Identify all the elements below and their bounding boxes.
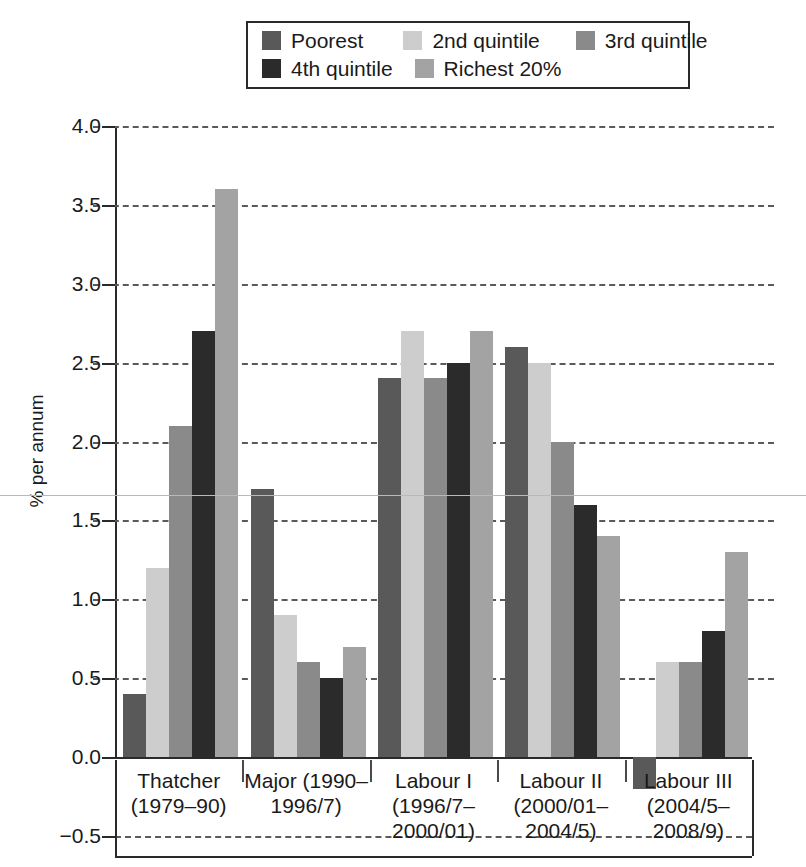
bar[interactable] (343, 647, 366, 757)
y-axis-tick-label: 4.0 (72, 115, 101, 136)
x-axis-category-label: Thatcher(1979–90) (115, 760, 242, 818)
legend-swatch-icon (262, 59, 281, 78)
plot-area: 4.03.53.02.52.01.51.00.50.0−0.5 (115, 126, 752, 867)
legend-row: Poorest2nd quintile3rd quintile (262, 30, 678, 51)
y-axis-tick (102, 126, 115, 128)
x-axis-category-line: 2008/9) (625, 818, 752, 843)
bar[interactable] (679, 662, 702, 757)
bar[interactable] (274, 615, 297, 757)
x-axis-category-label: Labour II(2000/01–2004/5) (497, 760, 624, 843)
bar[interactable] (169, 426, 192, 757)
bar[interactable] (297, 662, 320, 757)
gridline (93, 284, 774, 286)
y-axis-tick-label: 0.5 (72, 667, 101, 688)
x-axis-category-line: Thatcher (115, 768, 242, 793)
x-frame-right (752, 760, 754, 856)
legend-item[interactable]: 3rd quintile (576, 30, 708, 51)
x-axis-category-line: Labour II (497, 768, 624, 793)
x-axis-category-line: Labour III (625, 768, 752, 793)
x-axis-separator (242, 760, 244, 782)
bar[interactable] (551, 442, 574, 758)
y-axis-tick-label: 2.5 (72, 352, 101, 373)
y-axis-tick-label: −0.5 (60, 825, 101, 846)
x-frame-bottom (115, 856, 752, 858)
bar[interactable] (574, 505, 597, 757)
bar[interactable] (702, 631, 725, 757)
x-axis-category-label: Labour I(1996/7–2000/01) (370, 760, 497, 843)
x-axis-separator (370, 760, 372, 782)
x-axis-category-line: 2000/01) (370, 818, 497, 843)
x-axis-separator (497, 760, 499, 782)
bar[interactable] (597, 536, 620, 757)
y-axis-tick-label: 0.0 (72, 746, 101, 767)
bar[interactable] (146, 568, 169, 757)
y-axis-tick (102, 284, 115, 286)
y-axis-tick (102, 757, 115, 759)
legend-swatch-icon (415, 59, 434, 78)
legend-swatch-icon (403, 31, 422, 50)
x-axis-category-line: (2000/01– (497, 793, 624, 818)
bar[interactable] (251, 489, 274, 757)
bar[interactable] (123, 694, 146, 757)
bar[interactable] (401, 331, 424, 757)
legend-swatch-icon (262, 31, 281, 50)
legend-item-label: Richest 20% (444, 58, 562, 79)
y-axis-tick-label: 3.5 (72, 194, 101, 215)
y-axis-tick-label: 3.0 (72, 273, 101, 294)
y-axis-tick-label: 1.5 (72, 509, 101, 530)
x-axis-category-label: Major (1990–1996/7) (242, 760, 369, 818)
bar[interactable] (320, 678, 343, 757)
legend-item[interactable]: 2nd quintile (403, 30, 539, 51)
legend-item-label: 3rd quintile (605, 30, 708, 51)
bar[interactable] (192, 331, 215, 757)
bar[interactable] (378, 378, 401, 757)
legend-item-label: 2nd quintile (432, 30, 539, 51)
chart-page: Poorest2nd quintile3rd quintile4th quint… (0, 0, 806, 867)
legend-row: 4th quintileRichest 20% (262, 58, 678, 79)
bar[interactable] (656, 662, 679, 757)
gridline (93, 205, 774, 207)
bar[interactable] (725, 552, 748, 757)
x-axis-category-label: Labour III(2004/5–2008/9) (625, 760, 752, 843)
bar[interactable] (424, 378, 447, 757)
x-axis-category-line: 2004/5) (497, 818, 624, 843)
legend-item[interactable]: Poorest (262, 30, 363, 51)
x-axis-labels: Thatcher(1979–90)Major (1990–1996/7)Labo… (115, 760, 752, 865)
legend-item-label: 4th quintile (291, 58, 393, 79)
x-axis-category-line: Labour I (370, 768, 497, 793)
y-axis-tick (102, 442, 115, 444)
bar[interactable] (528, 363, 551, 757)
y-axis-title: % per annum (26, 356, 48, 546)
x-axis-category-line: (1979–90) (115, 793, 242, 818)
reference-line (0, 495, 806, 496)
y-axis-tick-label: 1.0 (72, 588, 101, 609)
legend-item-label: Poorest (291, 30, 363, 51)
y-axis-tick (102, 678, 115, 680)
x-axis-category-line: (2004/5– (625, 793, 752, 818)
zero-baseline (115, 757, 752, 759)
bar[interactable] (447, 363, 470, 757)
bar[interactable] (505, 347, 528, 757)
x-axis-category-line: Major (1990– (242, 768, 369, 793)
x-axis-category-line: (1996/7– (370, 793, 497, 818)
y-axis-tick (102, 363, 115, 365)
bar[interactable] (215, 189, 238, 757)
legend-item[interactable]: 4th quintile (262, 58, 393, 79)
y-axis-tick (102, 205, 115, 207)
y-axis-tick-label: 2.0 (72, 431, 101, 452)
y-axis-tick (102, 836, 115, 838)
x-axis-separator (625, 760, 627, 782)
legend-swatch-icon (576, 31, 595, 50)
chart-legend: Poorest2nd quintile3rd quintile4th quint… (246, 21, 690, 89)
x-axis-category-line: 1996/7) (242, 793, 369, 818)
legend-item[interactable]: Richest 20% (415, 58, 562, 79)
y-axis-tick (102, 520, 115, 522)
bar[interactable] (470, 331, 493, 757)
y-axis-tick (102, 599, 115, 601)
gridline (93, 126, 774, 128)
